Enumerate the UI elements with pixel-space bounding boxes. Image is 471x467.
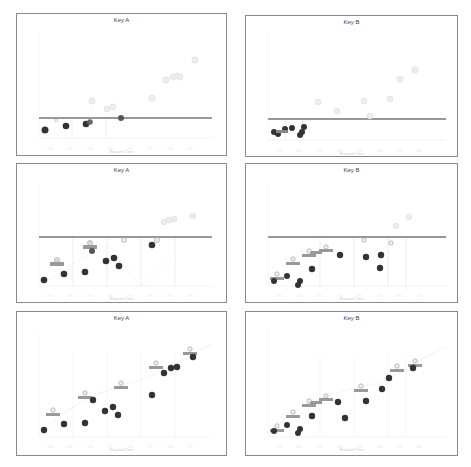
chart-panel-6: Key B 0:000:301:001:302:002:303:003:30 E… bbox=[245, 311, 458, 456]
x-axis-label: Elapsed Time bbox=[246, 447, 457, 452]
chart-panel-4: Key B 0:000:301:001:302:002:303:003:30 E… bbox=[245, 163, 458, 303]
chart-panel-2: Key B 0:000:301:001:302:002:303:003:30 E… bbox=[245, 15, 458, 157]
labeled-markers bbox=[46, 347, 197, 416]
scatter-plot: 0:000:301:001:302:002:303:003:30 bbox=[246, 164, 459, 304]
scatter-plot: 15 0:000:301:001:302:002:303:003:30 bbox=[17, 14, 228, 157]
x-axis-label: Elapsed Time bbox=[17, 296, 226, 301]
chart-panel-1: Key A 15 0:000:301:001:302:002:303:003:3… bbox=[16, 13, 227, 156]
dark-markers bbox=[271, 252, 384, 288]
x-axis-label: Elapsed Time bbox=[17, 149, 226, 154]
faded-markers bbox=[315, 67, 418, 119]
chart-panel-5: Key A 0:000:301:001:302:002:303:003:30 E… bbox=[16, 311, 227, 456]
scatter-plot: 0:000:301:001:302:002:303:003:30 bbox=[17, 164, 228, 304]
x-axis-label: Elapsed Time bbox=[246, 151, 457, 156]
faded-markers bbox=[161, 213, 196, 225]
scatter-plot: 0:000:301:001:302:002:303:003:30 bbox=[246, 16, 459, 158]
x-axis-label: Elapsed Time bbox=[17, 447, 226, 452]
dark-markers bbox=[42, 119, 93, 133]
svg-text:15: 15 bbox=[54, 118, 59, 123]
faded-markers bbox=[89, 57, 198, 112]
scatter-plot: 0:000:301:001:302:002:303:003:30 bbox=[17, 312, 228, 457]
scatter-plot: 0:000:301:001:302:002:303:003:30 bbox=[246, 312, 459, 457]
faded-markers bbox=[393, 214, 412, 229]
dark-markers bbox=[41, 354, 196, 433]
x-axis-label: Elapsed Time bbox=[246, 296, 457, 301]
chart-panel-3: Key A 0:000:301:001:302:002:303:003:30 E… bbox=[16, 163, 227, 303]
